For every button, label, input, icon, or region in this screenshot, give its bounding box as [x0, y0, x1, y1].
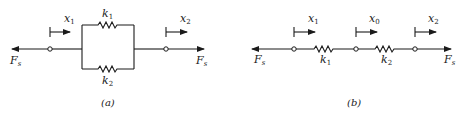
- label-force-left: Fs: [253, 53, 266, 67]
- label-force-right: Fs: [443, 53, 456, 67]
- label-x1: x1: [64, 12, 75, 26]
- label-k2: k2: [102, 74, 113, 88]
- label-x1: x1: [308, 12, 319, 26]
- spring-diagrams: k1 k2 x1 x2 Fs Fs (a) x1 x0 x2 k1 k2 Fs …: [0, 0, 463, 118]
- node-0: [354, 47, 358, 51]
- label-k1: k1: [320, 53, 331, 67]
- label-k1: k1: [102, 7, 113, 21]
- node-right: [164, 47, 168, 51]
- spring-k2-icon: [82, 66, 134, 72]
- diagram-a-parallel: k1 k2 x1 x2 Fs Fs (a): [9, 7, 208, 108]
- spring-k2-icon: [356, 46, 415, 52]
- label-force-right: Fs: [195, 54, 208, 68]
- label-x2: x2: [180, 12, 191, 26]
- node-2: [413, 47, 417, 51]
- caption-a: (a): [101, 97, 115, 108]
- spring-k1-icon: [294, 46, 356, 52]
- label-force-left: Fs: [9, 54, 22, 68]
- spring-k1-icon: [82, 22, 134, 28]
- label-x0: x0: [369, 12, 380, 26]
- label-x2: x2: [428, 12, 439, 26]
- diagram-b-series: x1 x0 x2 k1 k2 Fs Fs (b): [252, 12, 456, 108]
- caption-b: (b): [347, 97, 361, 108]
- label-k2: k2: [381, 53, 392, 67]
- node-1: [292, 47, 296, 51]
- node-left: [48, 47, 52, 51]
